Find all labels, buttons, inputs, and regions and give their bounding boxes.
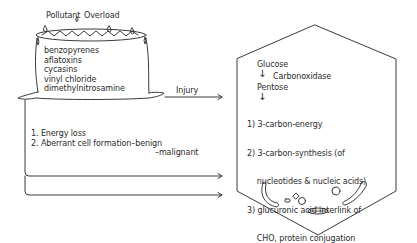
pathway-item: 2) 3-carbon-synthesis (of — [247, 149, 366, 159]
pollutant-item: benzopyrenes — [44, 46, 125, 56]
pollutant-list: benzopyrenes aflatoxins cycasins vinyl c… — [44, 46, 125, 94]
pathway-item: 3) glucuronic acid interlink of — [247, 206, 366, 216]
enzyme-label: Carbonoxidase — [273, 72, 331, 82]
pollutant-item: aflatoxins — [44, 56, 125, 66]
pathway-list: 1) 3-carbon-energy 2) 3-carbon-synthesis… — [247, 101, 366, 243]
pollutant-item: cycasins — [44, 65, 125, 75]
overload-label: Overload — [84, 11, 120, 21]
effect-continuation: –malignant — [155, 148, 198, 158]
effects-list: 1. Energy loss 2. Aberrant cell formatio… — [31, 129, 162, 148]
pathway-item: CHO, protein conjugation — [247, 234, 366, 243]
pathway-item: 1) 3-carbon-energy — [247, 120, 366, 130]
effect-item: 2. Aberrant cell formation–benign — [31, 139, 162, 149]
pathway-item: nucleotides & nucleic acids) — [247, 177, 366, 187]
pollutant-item: dimethylnitrosamine — [44, 84, 125, 94]
pollutant-label: Pollutant — [46, 11, 80, 21]
down-arrow-icon: ↓ — [258, 69, 266, 79]
injury-label: Injury — [176, 86, 198, 96]
pollutant-item: vinyl chloride — [44, 75, 125, 85]
connector-line — [25, 176, 222, 195]
effect-item: 1. Energy loss — [31, 129, 162, 139]
drop-icon — [43, 26, 47, 32]
